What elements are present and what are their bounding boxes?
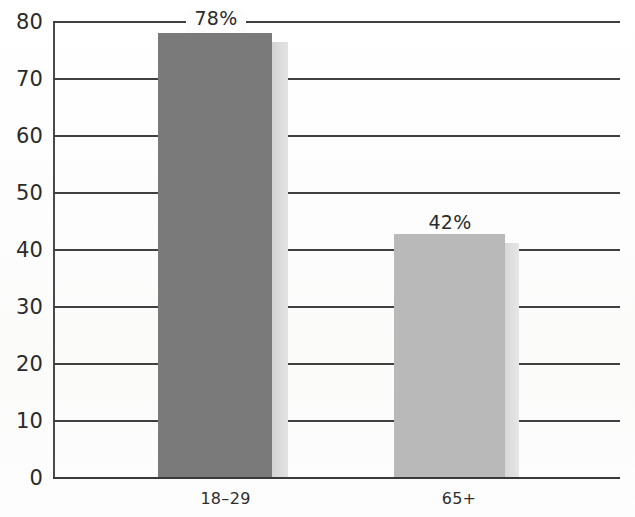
- y-tick-label-40: 40: [0, 238, 43, 262]
- gridline-10: [53, 420, 620, 422]
- value-label-65-plus: 42%: [410, 211, 490, 233]
- bar-65-plus: [394, 234, 505, 477]
- gridline-40: [53, 249, 620, 251]
- x-category-label-65-plus: 65+: [398, 489, 520, 508]
- y-tick-label-50: 50: [0, 181, 43, 205]
- bar-side-65-plus: [504, 243, 519, 477]
- gridline-60: [53, 135, 620, 137]
- value-label-18-29: 78%: [176, 7, 256, 29]
- gridline-70: [53, 78, 620, 80]
- y-tick-label-20: 20: [0, 352, 43, 376]
- plot-area: 78% 42% 80 70 60 50 40 30 20 10 0 18–29 …: [0, 0, 635, 517]
- bar-18-29: [158, 33, 272, 477]
- x-category-label-18-29: 18–29: [163, 489, 288, 508]
- bar-side-18-29: [271, 42, 288, 477]
- gridline-0-baseline: [53, 477, 620, 479]
- y-tick-label-0: 0: [0, 466, 43, 490]
- y-tick-label-60: 60: [0, 124, 43, 148]
- gridline-50: [53, 192, 620, 194]
- gridline-80: [53, 21, 620, 23]
- y-tick-label-10: 10: [0, 409, 43, 433]
- bar-chart: 78% 42% 80 70 60 50 40 30 20 10 0 18–29 …: [0, 0, 635, 517]
- y-tick-label-30: 30: [0, 295, 43, 319]
- gridline-30: [53, 306, 620, 308]
- y-tick-label-70: 70: [0, 67, 43, 91]
- y-tick-label-80: 80: [0, 10, 43, 34]
- gridline-20: [53, 363, 620, 365]
